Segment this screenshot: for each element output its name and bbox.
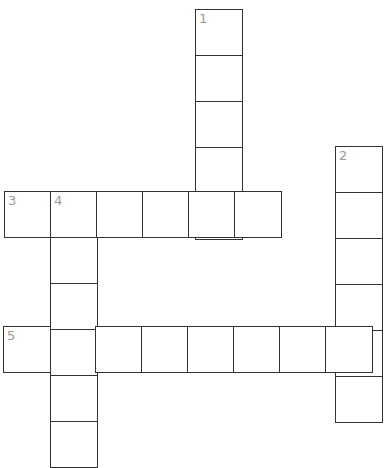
crossword-cell[interactable]: 4 [50,191,98,238]
crossword-cell[interactable]: 1 [195,9,243,56]
clue-number: 4 [54,194,62,207]
crossword-cell[interactable] [195,101,243,148]
crossword-cell[interactable] [335,284,383,331]
clue-number: 5 [7,329,15,342]
clue-number: 3 [8,194,16,207]
crossword-cell[interactable] [325,326,373,373]
crossword-cell[interactable] [195,55,243,102]
crossword-cell[interactable] [50,421,98,468]
crossword-cell[interactable]: 5 [3,326,51,373]
crossword-cell[interactable] [195,147,243,194]
crossword-cell[interactable]: 2 [335,146,383,193]
crossword-cell[interactable] [233,326,281,373]
crossword-cell[interactable]: 3 [4,191,52,238]
crossword-cell[interactable] [141,326,189,373]
crossword-cell[interactable] [142,191,190,238]
crossword-cell[interactable] [50,375,98,422]
clue-number: 2 [339,149,347,162]
crossword-cell[interactable] [335,376,383,423]
crossword-cell[interactable] [279,326,327,373]
crossword-cell[interactable] [335,192,383,239]
crossword-cell[interactable] [234,191,282,238]
crossword-cell[interactable] [96,191,144,238]
crossword-cell[interactable] [187,326,235,373]
crossword-cell[interactable] [50,237,98,284]
crossword-cell[interactable] [335,238,383,285]
clue-number: 1 [199,12,207,25]
crossword-cell[interactable] [50,283,98,330]
crossword-cell[interactable] [188,191,236,238]
crossword-cell[interactable] [50,329,98,376]
crossword-cell[interactable] [95,326,143,373]
